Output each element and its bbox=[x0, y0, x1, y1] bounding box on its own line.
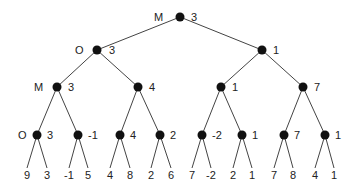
leaf-value: -2 bbox=[206, 169, 216, 181]
node-value: 3 bbox=[47, 129, 53, 141]
leaf-value: 2 bbox=[230, 169, 236, 181]
tree-node bbox=[134, 83, 143, 92]
node-value: 1 bbox=[273, 44, 279, 56]
node-value: 7 bbox=[314, 81, 320, 93]
tree-edge bbox=[57, 87, 78, 135]
leaf-edge bbox=[69, 135, 78, 168]
node-value: -1 bbox=[88, 129, 98, 141]
tree-edge bbox=[97, 50, 138, 87]
tree-node bbox=[280, 131, 289, 140]
leaf-edge bbox=[120, 135, 130, 168]
leaf-value: 3 bbox=[44, 169, 50, 181]
node-value: 4 bbox=[130, 129, 136, 141]
tree-node bbox=[217, 83, 226, 92]
leaf-value: 7 bbox=[271, 169, 277, 181]
node-value: 3 bbox=[109, 44, 115, 56]
leaf-edges-layer bbox=[27, 135, 334, 168]
tree-node bbox=[321, 131, 330, 140]
tree-node bbox=[53, 83, 62, 92]
leaf-value: 8 bbox=[290, 169, 296, 181]
leaf-edge bbox=[315, 135, 325, 168]
leaf-value: 1 bbox=[331, 169, 337, 181]
tree-edge bbox=[303, 87, 325, 135]
leaf-value: 4 bbox=[107, 169, 113, 181]
tree-edge bbox=[120, 87, 138, 135]
tree-node bbox=[74, 131, 83, 140]
tree-edge bbox=[202, 87, 221, 135]
node-value: -2 bbox=[212, 129, 222, 141]
labels-layer: 93-1548267-22178413M3O13M4173O-142-2171 bbox=[18, 11, 341, 181]
node-value: 4 bbox=[149, 81, 155, 93]
tree-node bbox=[299, 83, 308, 92]
leaf-edge bbox=[110, 135, 120, 168]
node-value: 3 bbox=[191, 11, 197, 23]
leaf-value: 8 bbox=[127, 169, 133, 181]
tree-node bbox=[93, 46, 102, 55]
tree-node bbox=[116, 131, 125, 140]
leaf-edge bbox=[27, 135, 37, 168]
player-label: M bbox=[34, 81, 43, 93]
tree-node bbox=[176, 13, 185, 22]
leaf-value: 5 bbox=[85, 169, 91, 181]
node-value: 1 bbox=[335, 129, 341, 141]
node-value: 7 bbox=[294, 129, 300, 141]
player-label: O bbox=[18, 129, 27, 141]
tree-edge bbox=[262, 50, 303, 87]
tree-edge bbox=[284, 87, 303, 135]
leaf-edge bbox=[192, 135, 202, 168]
player-label: M bbox=[154, 11, 163, 23]
leaf-edge bbox=[242, 135, 252, 168]
leaf-edge bbox=[325, 135, 334, 168]
leaf-edge bbox=[274, 135, 284, 168]
edges-layer bbox=[37, 17, 325, 135]
leaf-edge bbox=[202, 135, 211, 168]
leaf-edge bbox=[78, 135, 88, 168]
tree-edge bbox=[37, 87, 57, 135]
minimax-tree-diagram: 93-1548267-22178413M3O13M4173O-142-2171 bbox=[0, 0, 359, 192]
tree-node bbox=[238, 131, 247, 140]
node-value: 1 bbox=[232, 81, 238, 93]
tree-canvas: 93-1548267-22178413M3O13M4173O-142-2171 bbox=[0, 0, 359, 192]
leaf-value: 4 bbox=[312, 169, 318, 181]
node-value: 1 bbox=[252, 129, 258, 141]
player-label: O bbox=[75, 44, 84, 56]
tree-node bbox=[258, 46, 267, 55]
node-value: 2 bbox=[170, 129, 176, 141]
leaf-edge bbox=[233, 135, 242, 168]
leaf-value: 1 bbox=[249, 169, 255, 181]
leaf-value: 6 bbox=[168, 169, 174, 181]
tree-node bbox=[198, 131, 207, 140]
node-value: 3 bbox=[68, 81, 74, 93]
leaf-value: 2 bbox=[148, 169, 154, 181]
tree-node bbox=[33, 131, 42, 140]
tree-edge bbox=[221, 50, 262, 87]
leaf-edge bbox=[151, 135, 160, 168]
nodes-layer bbox=[33, 13, 330, 140]
tree-edge bbox=[138, 87, 160, 135]
leaf-value: -1 bbox=[64, 169, 74, 181]
tree-edge bbox=[221, 87, 242, 135]
tree-node bbox=[156, 131, 165, 140]
leaf-edge bbox=[284, 135, 293, 168]
leaf-edge bbox=[37, 135, 47, 168]
leaf-value: 7 bbox=[189, 169, 195, 181]
leaf-value: 9 bbox=[24, 169, 30, 181]
